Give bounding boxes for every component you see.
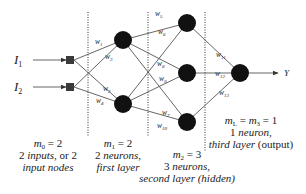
neural-network-diagram: I1 I2 Y w1w3w2w4w5w6w8w9w7w10w11w12w13 m… — [0, 0, 306, 194]
caption-third-line3: third layer (output) — [209, 138, 294, 151]
weight-label-w12: w12 — [215, 69, 226, 79]
weight-label-w2: w2 — [103, 84, 111, 94]
caption-second-line2: 3 neurons, — [164, 160, 210, 172]
connection-l1n1-to-l2n3 — [123, 40, 187, 122]
neuron-second-layer-3 — [178, 113, 196, 131]
connection-l1n2-to-l2n2 — [123, 73, 187, 104]
weight-label-w4: w4 — [96, 96, 104, 106]
input-label-2: I2 — [13, 79, 22, 96]
weight-label-w13: w13 — [219, 88, 230, 98]
caption-third-line2: 1 neuron, — [230, 126, 272, 138]
input-node-1 — [66, 56, 74, 64]
output-label: Y — [284, 68, 290, 78]
caption-first-line2: 2 neurons, — [95, 149, 141, 161]
connection-l1n1-to-l2n2 — [123, 40, 187, 73]
neuron-second-layer-1 — [178, 14, 196, 32]
weight-label-w11: w11 — [216, 50, 226, 60]
caption-first-layer: m1 = 2 2 neurons, first layer — [95, 137, 141, 173]
neuron-second-layer-2 — [178, 64, 196, 82]
connection-l1n2-to-l2n1 — [123, 23, 187, 104]
weight-label-w1: w1 — [95, 37, 103, 47]
caption-third-layer: mL = m3 = 1 1 neuron, third layer (outpu… — [209, 114, 294, 151]
input-label-1: I1 — [13, 52, 22, 69]
caption-input-line3: input nodes — [22, 161, 73, 173]
connection-l1n2-to-l2n3 — [123, 104, 187, 122]
weight-label-w3: w3 — [105, 52, 113, 62]
caption-second-layer: m2 = 3 3 neurons, second layer (hidden) — [139, 148, 235, 185]
connection-input2-to-l1n1 — [74, 40, 123, 87]
weight-label-w5: w5 — [155, 9, 163, 19]
neuron-first-layer-2 — [114, 95, 132, 113]
weight-label-w9: w9 — [159, 74, 167, 84]
caption-first-line3: first layer — [96, 161, 140, 173]
caption-input-line2: 2 inputs, or 2 — [19, 149, 77, 161]
caption-input-layer: m0 = 2 2 inputs, or 2 input nodes — [19, 137, 77, 173]
weight-label-w7: w7 — [162, 108, 170, 118]
connection-l1n1-to-l2n1 — [123, 23, 187, 40]
neuron-output — [231, 64, 249, 82]
neuron-first-layer-1 — [114, 31, 132, 49]
input-node-2 — [66, 83, 74, 91]
weight-labels: w1w3w2w4w5w6w8w9w7w10w11w12w13 — [95, 9, 230, 131]
weight-label-w8: w8 — [157, 59, 165, 69]
weight-label-w10: w10 — [157, 121, 168, 131]
connection-l2n1-to-output — [187, 23, 240, 73]
caption-second-line3: second layer (hidden) — [139, 172, 235, 185]
